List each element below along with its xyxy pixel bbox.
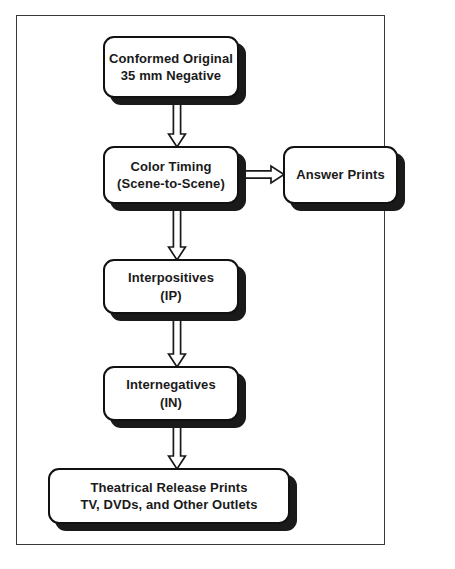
connector-interpositives-to-internegatives: [168, 314, 186, 368]
node-internegatives[interactable]: Internegatives (IN): [103, 366, 239, 421]
connector-internegatives-to-release: [168, 421, 186, 470]
node-internegatives-label: Internegatives (IN): [126, 376, 216, 410]
node-color-timing[interactable]: Color Timing (Scene-to-Scene): [103, 146, 239, 204]
node-interpositives-label: Interpositives (IP): [128, 269, 214, 303]
node-conformed-label: Conformed Original 35 mm Negative: [109, 50, 233, 84]
flowchart-diagram: Conformed Original 35 mm Negative Color …: [0, 0, 455, 569]
connector-conformed-to-color-timing: [168, 98, 186, 148]
node-theatrical-release-prints[interactable]: Theatrical Release Prints TV, DVDs, and …: [48, 468, 290, 524]
connector-color-timing-to-interpositives: [168, 204, 186, 261]
node-answer-prints[interactable]: Answer Prints: [283, 146, 398, 204]
node-interpositives[interactable]: Interpositives (IP): [103, 259, 239, 314]
node-conformed-original-negative[interactable]: Conformed Original 35 mm Negative: [103, 36, 239, 98]
node-answer-prints-label: Answer Prints: [296, 166, 385, 183]
node-release-label: Theatrical Release Prints TV, DVDs, and …: [80, 479, 257, 513]
node-color-timing-label: Color Timing (Scene-to-Scene): [117, 158, 225, 192]
